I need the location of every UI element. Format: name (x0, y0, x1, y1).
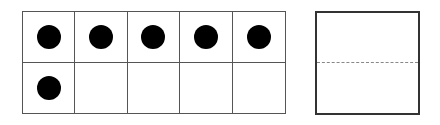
ten-frame (22, 11, 286, 114)
answer-writing-box[interactable] (315, 11, 420, 115)
counter-dot-icon (194, 25, 218, 49)
ten-frame-cell-9 (180, 63, 232, 114)
ten-frame-cell-4 (180, 12, 232, 63)
counter-dot-icon (89, 25, 113, 49)
ten-frame-cell-7 (75, 63, 127, 114)
ten-frame-cell-2 (75, 12, 127, 63)
counter-dot-icon (247, 25, 271, 49)
counter-dot-icon (37, 25, 61, 49)
ten-frame-cell-5 (233, 12, 285, 63)
ten-frame-cell-10 (233, 63, 285, 114)
dashed-midline (317, 62, 418, 63)
ten-frame-cell-8 (128, 63, 180, 114)
ten-frame-cell-3 (128, 12, 180, 63)
ten-frame-cell-1 (23, 12, 75, 63)
counter-dot-icon (37, 76, 61, 100)
ten-frame-cell-6 (23, 63, 75, 114)
counter-dot-icon (141, 25, 165, 49)
